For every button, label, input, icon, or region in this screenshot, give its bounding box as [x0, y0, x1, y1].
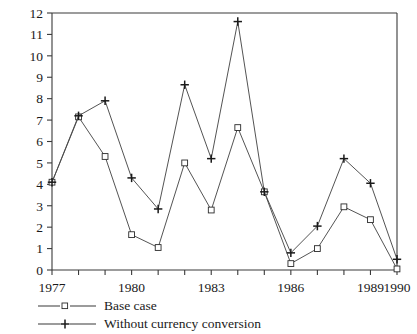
y-axis-tick-label: 4	[36, 177, 43, 192]
y-axis-tick-label: 10	[30, 49, 44, 64]
line-chart: 0123456789101112 19771980198319861989199…	[0, 0, 417, 334]
y-axis-tick-labels: 0123456789101112	[30, 6, 44, 278]
series-base-case	[49, 114, 400, 272]
data-point-marker-square	[102, 154, 108, 160]
legend-key-plus-icon	[36, 315, 100, 333]
chart-plot-area: 0123456789101112 19771980198319861989199…	[0, 0, 417, 334]
y-axis-tick-label: 8	[36, 91, 43, 106]
data-point-marker-square	[314, 246, 320, 252]
chart-legend: Base case Without currency conversion	[36, 297, 376, 333]
data-point-marker-square	[129, 232, 135, 238]
data-point-marker-square	[394, 266, 400, 272]
y-axis-tick-label: 1	[36, 241, 43, 256]
y-axis-tick-label: 3	[36, 199, 43, 214]
y-axis-tick-label: 7	[36, 113, 43, 128]
x-axis-tick-label: 1989	[357, 280, 384, 295]
data-point-marker-square	[182, 160, 188, 166]
x-axis-tick-label: 1990	[384, 280, 411, 295]
x-axis-tick-labels: 197719801983198619891990	[39, 280, 411, 295]
y-axis-tick-label: 12	[30, 6, 44, 21]
data-point-marker-square	[341, 204, 347, 210]
x-axis-tick-label: 1983	[198, 280, 225, 295]
series-without-currency-conversion	[48, 17, 401, 263]
y-axis-tick-label: 6	[36, 134, 43, 149]
data-point-marker-square	[208, 207, 214, 213]
data-point-marker-square	[368, 217, 374, 223]
series-path	[52, 117, 397, 269]
y-axis-tick-label: 9	[36, 70, 43, 85]
y-axis-tick-label: 2	[36, 220, 43, 235]
data-point-marker-square	[288, 261, 294, 267]
legend-key-square-icon	[36, 297, 100, 315]
data-point-marker-square	[155, 245, 161, 251]
series-path	[52, 22, 397, 260]
data-point-marker-plus	[180, 81, 188, 89]
chart-series	[48, 17, 401, 271]
y-axis-tick-label: 0	[36, 263, 43, 278]
legend-item-base-case: Base case	[36, 297, 376, 315]
x-axis-tick-label: 1977	[39, 280, 66, 295]
legend-label-base-case: Base case	[100, 298, 157, 314]
chart-axes	[47, 13, 397, 275]
data-point-marker-plus	[393, 255, 401, 263]
x-axis-tick-label: 1986	[277, 280, 304, 295]
data-point-marker-plus	[234, 17, 242, 25]
legend-label-without-currency-conversion: Without currency conversion	[100, 316, 261, 332]
y-axis-tick-label: 5	[36, 156, 43, 171]
legend-item-without-currency-conversion: Without currency conversion	[36, 315, 376, 333]
data-point-marker-plus	[207, 154, 215, 162]
x-axis-tick-label: 1980	[118, 280, 145, 295]
data-point-marker-plus	[101, 97, 109, 105]
data-point-marker-square	[235, 125, 241, 131]
y-axis-tick-label: 11	[30, 27, 43, 42]
